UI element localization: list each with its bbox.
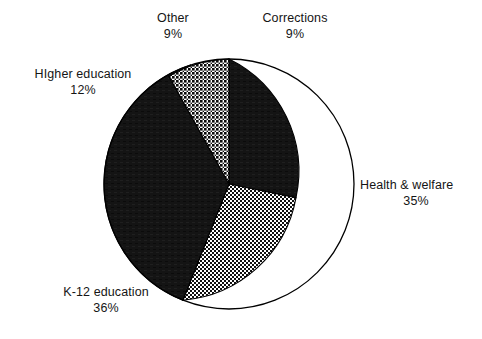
slice-label-k12-education-value: 36%	[30, 300, 182, 316]
slice-label-other-name: Other	[131, 10, 215, 26]
slice-label-k12-education-name: K-12 education	[30, 284, 182, 300]
pie-chart: Other 9% Corrections 9% HIgher education…	[0, 0, 482, 339]
slice-label-corrections-value: 9%	[243, 26, 347, 42]
slice-label-corrections-name: Corrections	[243, 10, 347, 26]
slice-label-other: Other 9%	[131, 10, 215, 42]
slice-label-health-welfare-value: 35%	[360, 193, 472, 209]
slice-label-corrections: Corrections 9%	[243, 10, 347, 42]
slice-label-higher-education: HIgher education 12%	[8, 66, 158, 98]
slice-label-higher-education-value: 12%	[8, 82, 158, 98]
slice-label-other-value: 9%	[131, 26, 215, 42]
pie-slice-corrections	[229, 59, 299, 198]
slice-label-health-welfare: Health & welfare 35%	[360, 177, 480, 209]
slice-label-k12-education: K-12 education 36%	[30, 284, 182, 316]
slice-label-health-welfare-name: Health & welfare	[360, 177, 480, 193]
slice-label-higher-education-name: HIgher education	[8, 66, 158, 82]
